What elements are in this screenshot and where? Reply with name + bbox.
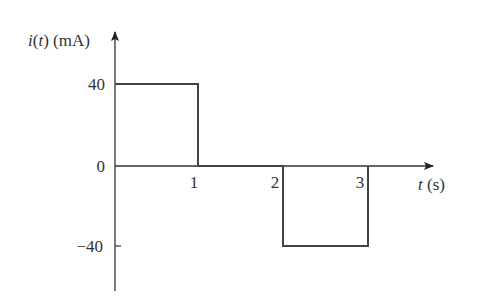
chart: i(t) (mA) 40 0 −40 1 2 3 t (s): [0, 0, 483, 303]
y-axis-label: i(t) (mA): [28, 31, 90, 50]
y-tick-label-0: 0: [97, 157, 106, 176]
x-axis-label: t (s): [418, 175, 445, 194]
x-tick-label-3: 3: [356, 173, 365, 192]
waveform-line: [115, 84, 368, 246]
x-tick-label-2: 2: [271, 173, 280, 192]
x-tick-label-1: 1: [190, 173, 199, 192]
y-tick-label-40: 40: [88, 75, 105, 94]
y-tick-label-neg40: −40: [76, 237, 103, 256]
